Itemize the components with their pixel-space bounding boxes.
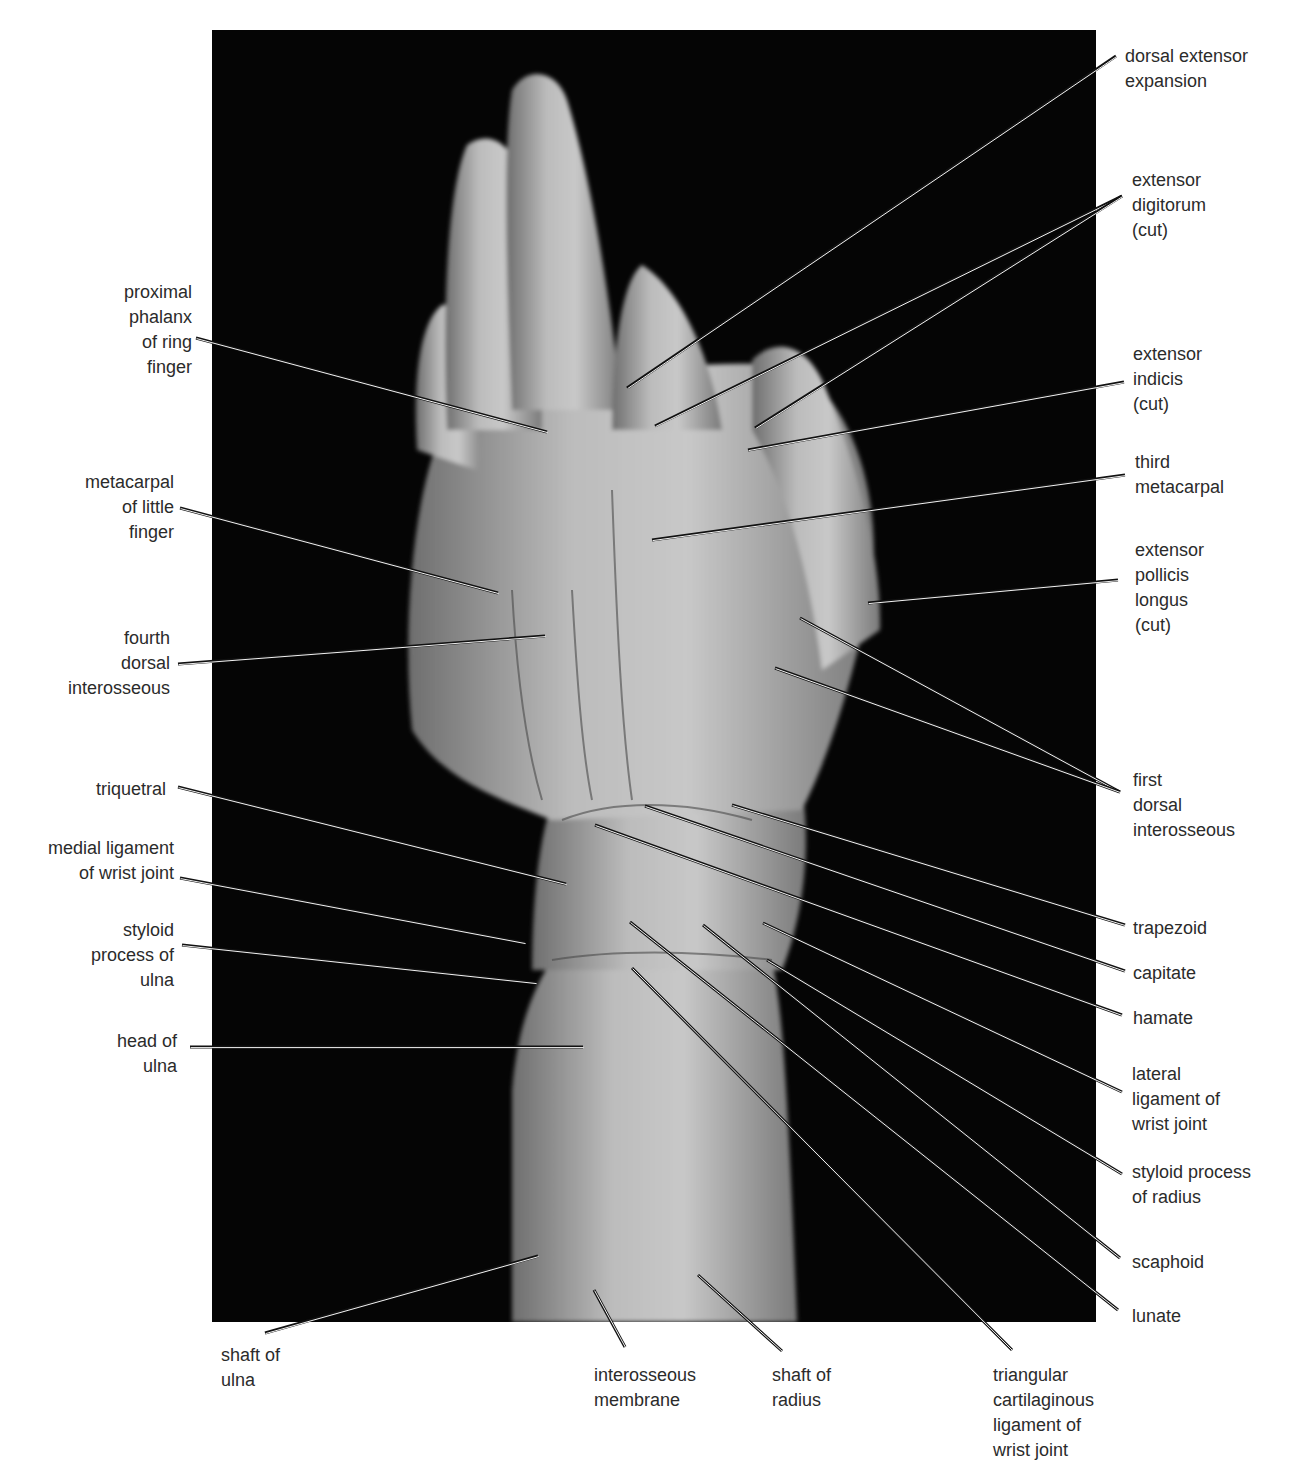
label-medial-ligament-of-wrist-joint: medial ligament of wrist joint <box>20 836 174 886</box>
label-extensor-pollicis-longus-cut: extensor pollicis longus (cut) <box>1135 538 1204 638</box>
label-shaft-of-ulna: shaft of ulna <box>221 1343 280 1393</box>
label-hamate: hamate <box>1133 1006 1193 1031</box>
label-dorsal-extensor-expansion: dorsal extensor expansion <box>1125 44 1248 94</box>
label-trapezoid: trapezoid <box>1133 916 1207 941</box>
label-extensor-digitorum-cut: extensor digitorum (cut) <box>1132 168 1206 243</box>
label-fourth-dorsal-interosseous: fourth dorsal interosseous <box>40 626 170 701</box>
label-capitate: capitate <box>1133 961 1196 986</box>
label-styloid-process-of-ulna: styloid process of ulna <box>40 918 174 993</box>
label-first-dorsal-interosseous: first dorsal interosseous <box>1133 768 1235 843</box>
label-styloid-process-of-radius: styloid process of radius <box>1132 1160 1251 1210</box>
label-head-of-ulna: head of ulna <box>40 1029 177 1079</box>
label-third-metacarpal: third metacarpal <box>1135 450 1224 500</box>
label-triangular-cartilaginous-ligament-of-wrist-joint: triangular cartilaginous ligament of wri… <box>993 1363 1094 1463</box>
label-interosseous-membrane: interosseous membrane <box>594 1363 696 1413</box>
label-shaft-of-radius: shaft of radius <box>772 1363 831 1413</box>
hand-dissection-photo <box>212 30 1096 1322</box>
label-scaphoid: scaphoid <box>1132 1250 1204 1275</box>
label-metacarpal-of-little-finger: metacarpal of little finger <box>40 470 174 545</box>
label-lateral-ligament-of-wrist-joint: lateral ligament of wrist joint <box>1132 1062 1220 1137</box>
anatomical-figure: dorsal extensor expansionextensor digito… <box>0 0 1300 1479</box>
label-triquetral: triquetral <box>40 777 166 802</box>
label-proximal-phalanx-of-ring-finger: proximal phalanx of ring finger <box>40 280 192 380</box>
label-extensor-indicis-cut: extensor indicis (cut) <box>1133 342 1202 417</box>
label-lunate: lunate <box>1132 1304 1181 1329</box>
hand-silhouette-icon <box>212 30 1096 1322</box>
